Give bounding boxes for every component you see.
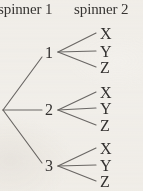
branch-root-to-1 (3, 57, 42, 110)
tree-branch-lines (0, 0, 143, 191)
branch-2-to-x (58, 92, 96, 110)
branch-3-to-x (58, 148, 96, 166)
stage1-node-3: 3 (42, 158, 56, 174)
leaf-1-z: Z (100, 60, 114, 76)
stage1-node-2: 2 (42, 102, 56, 118)
leaf-1-x: X (100, 26, 114, 42)
branch-2-to-y (58, 108, 96, 110)
branch-1-to-z (58, 52, 96, 67)
branch-3-to-z (58, 166, 96, 181)
branch-2-to-z (58, 110, 96, 125)
leaf-1-y: Y (100, 44, 114, 60)
branch-1-to-x (58, 33, 96, 52)
leaf-3-z: Z (100, 174, 114, 190)
branch-root-to-3 (3, 110, 42, 163)
leaf-2-x: X (100, 85, 114, 101)
branch-1-to-y (58, 51, 96, 52)
leaf-3-x: X (100, 141, 114, 157)
leaf-3-y: Y (100, 158, 114, 174)
stage1-node-1: 1 (42, 45, 56, 61)
leaf-2-z: Z (100, 118, 114, 134)
leaf-2-y: Y (100, 101, 114, 117)
branch-3-to-y (58, 165, 96, 166)
tree-diagram-page: spinner 1 spinner 2 1 2 3 X Y Z X Y Z X … (0, 0, 143, 191)
